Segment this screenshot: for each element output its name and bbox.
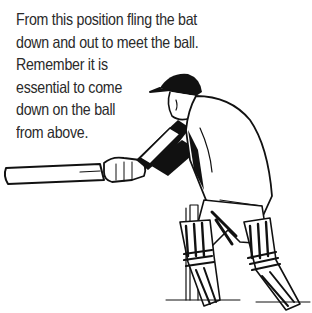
caption-line-4: essential to come [16, 76, 198, 99]
instruction-caption: From this position fling the bat down an… [16, 8, 198, 143]
caption-line-6: from above. [16, 121, 198, 144]
caption-line-2: down and out to meet the ball. [16, 31, 198, 54]
right-leg-pad-icon [244, 218, 300, 310]
torso-icon [186, 96, 272, 219]
caption-line-5: down on the ball [16, 98, 198, 121]
caption-line-1: From this position fling the bat [16, 8, 198, 31]
bat-icon [5, 164, 104, 184]
caption-line-3: Remember it is [16, 53, 198, 76]
